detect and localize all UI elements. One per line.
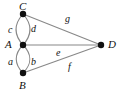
vertex-label-b: B [19, 80, 26, 91]
vertex-label-c: C [19, 1, 26, 12]
edge-label-e: e [56, 48, 60, 58]
edge-b [23, 45, 30, 73]
graph-diagram: C A B D c d a b g e f [0, 0, 121, 92]
edge-d [23, 14, 30, 45]
edge-label-f: f [68, 62, 71, 72]
vertex-a [20, 42, 26, 48]
vertex-b [20, 70, 26, 76]
edge-label-b: b [31, 57, 36, 67]
vertex-d [98, 42, 104, 48]
edge-label-g: g [65, 14, 70, 24]
edge-c [16, 14, 23, 45]
edge-a [16, 45, 23, 73]
edge-label-a: a [8, 57, 13, 67]
vertex-label-a: A [5, 39, 12, 50]
edge-label-c: c [8, 25, 12, 35]
vertex-label-d: D [108, 39, 116, 50]
edge-label-d: d [31, 24, 36, 34]
